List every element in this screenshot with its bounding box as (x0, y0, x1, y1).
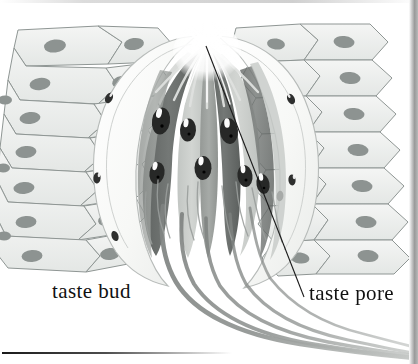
figure-canvas: taste bud taste pore (0, 0, 418, 364)
label-taste-bud: taste bud (52, 281, 131, 302)
scan-edge-smudge (0, 0, 418, 3)
taste-bud-illustration (0, 0, 418, 364)
label-taste-pore: taste pore (309, 283, 394, 304)
page-rule (2, 352, 232, 354)
page-edge-shadow (409, 0, 418, 364)
